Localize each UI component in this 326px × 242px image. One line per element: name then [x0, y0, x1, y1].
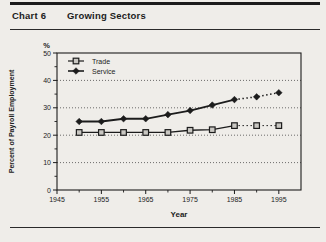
- trade-square-marker: [254, 123, 260, 129]
- trade-square-marker: [99, 130, 105, 136]
- x-tick-label-1945: 1945: [49, 196, 65, 203]
- series-trade: [76, 123, 281, 135]
- x-axis-title: Year: [171, 210, 188, 219]
- service-diamond-marker: [209, 102, 216, 109]
- trade-square-marker: [121, 130, 127, 136]
- legend-item-service: Service: [68, 68, 115, 75]
- trade-square-marker: [165, 130, 171, 136]
- chart-canvas: 01020304050194519551965197519851995%Perc…: [0, 36, 326, 222]
- trade-square-marker: [73, 58, 79, 64]
- trade-square-marker: [76, 130, 82, 136]
- service-diamond-marker: [276, 89, 283, 96]
- y-axis-title: Percent of Payroll Employment: [8, 69, 16, 173]
- chart-number-label: Chart 6: [12, 10, 46, 21]
- y-tick-label-30: 30: [43, 104, 51, 111]
- footer-rule: [10, 227, 320, 228]
- x-tick-label-1995: 1995: [271, 196, 287, 203]
- x-tick-label-1955: 1955: [94, 196, 110, 203]
- y-tick-label-50: 50: [43, 50, 51, 57]
- service-diamond-marker: [231, 96, 238, 103]
- service-diamond-marker: [165, 111, 172, 118]
- scanned-page: Chart 6 Growing Sectors 0102030405019451…: [0, 0, 326, 242]
- x-axis: 194519551965197519851995: [49, 190, 286, 203]
- legend: TradeService: [68, 58, 115, 75]
- legend-label-service: Service: [92, 68, 115, 75]
- service-diamond-marker: [187, 107, 194, 114]
- y-tick-label-40: 40: [43, 77, 51, 84]
- trade-square-marker: [143, 130, 149, 136]
- header-divider: [10, 29, 320, 30]
- legend-label-trade: Trade: [92, 58, 110, 65]
- page-title: Growing Sectors: [67, 10, 146, 21]
- chart-header: Chart 6 Growing Sectors: [12, 10, 316, 21]
- y-tick-label-10: 10: [43, 159, 51, 166]
- y-axis: 01020304050: [43, 50, 57, 194]
- x-tick-label-1985: 1985: [227, 196, 243, 203]
- top-rule: [10, 2, 320, 5]
- legend-item-trade: Trade: [68, 58, 110, 65]
- trade-square-marker: [232, 123, 238, 129]
- trade-square-marker: [209, 127, 215, 133]
- service-diamond-marker: [76, 118, 83, 125]
- y-unit-label: %: [43, 41, 50, 50]
- service-diamond-marker: [120, 115, 127, 122]
- service-diamond-marker: [98, 118, 105, 125]
- trade-square-marker: [187, 127, 193, 133]
- service-diamond-marker: [253, 94, 260, 101]
- service-diamond-marker: [73, 68, 80, 75]
- x-tick-label-1975: 1975: [182, 196, 198, 203]
- x-tick-label-1965: 1965: [138, 196, 154, 203]
- service-diamond-marker: [142, 115, 149, 122]
- series-service: [76, 89, 282, 124]
- trade-square-marker: [276, 123, 282, 129]
- y-tick-label-0: 0: [47, 187, 51, 194]
- y-tick-label-20: 20: [43, 132, 51, 139]
